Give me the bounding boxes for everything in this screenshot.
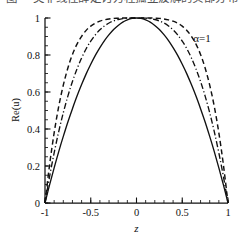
plot-canvas: -1-0.500.51 00.20.40.60.81 z Re(u) α=1 [0, 0, 249, 243]
x-axis-label: z [133, 222, 139, 234]
x-tick-label: 1 [225, 207, 230, 218]
x-tick-label: -1 [41, 207, 50, 218]
figure-panel: 图 一类非线性薛定谔方程孤立波解的实部分布 -1-0.500.51 00.20.… [0, 0, 249, 243]
y-tick-label: 0 [35, 198, 40, 209]
y-tick-label: 0.6 [27, 87, 40, 98]
y-axis-tick-labels: 00.20.40.60.81 [27, 13, 41, 209]
x-axis-tick-labels: -1-0.500.51 [41, 207, 231, 218]
curve-group [45, 18, 228, 203]
y-tick-label: 0.2 [27, 161, 40, 172]
y-tick-label: 1 [35, 13, 40, 24]
x-tick-label: 0.5 [176, 207, 189, 218]
y-tick-label: 0.4 [27, 124, 41, 135]
x-tick-label: -0.5 [82, 207, 99, 218]
x-tick-label: 0 [134, 207, 139, 218]
solid-curve [45, 18, 228, 203]
y-axis-label: Re(u) [10, 98, 22, 122]
y-tick-label: 0.8 [27, 50, 40, 61]
alpha-annotation: α=1 [193, 32, 210, 44]
